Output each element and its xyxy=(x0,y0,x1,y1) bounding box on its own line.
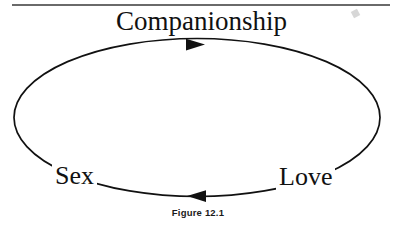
top-arrow xyxy=(186,39,205,51)
node-label-companionship: Companionship xyxy=(112,8,291,35)
figure-caption: Figure 12.1 xyxy=(0,207,396,218)
node-label-love: Love xyxy=(276,164,335,190)
node-label-sex: Sex xyxy=(52,163,97,189)
figure-container: Companionship Sex Love Figure 12.1 xyxy=(0,0,396,238)
bottom-arrow xyxy=(187,190,206,202)
